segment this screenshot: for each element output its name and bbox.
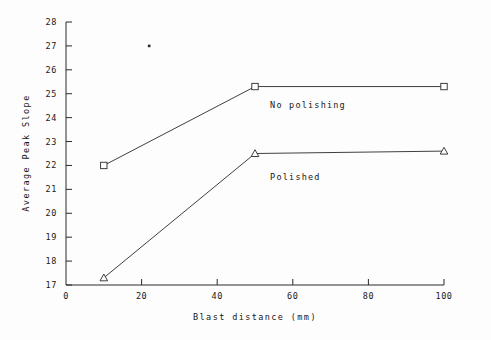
y-tick-label: 22: [46, 160, 57, 170]
y-tick-label: 28: [46, 17, 57, 27]
x-tick-label: 40: [211, 291, 222, 301]
data-series: No polishingPolished: [100, 83, 448, 280]
x-tick-label: 20: [136, 291, 147, 301]
y-tick-label: 27: [46, 41, 57, 51]
x-tick-label: 60: [287, 291, 298, 301]
series-line: [104, 151, 444, 278]
tick-labels: 171819202122232425262728020406080100: [46, 17, 453, 301]
y-tick-label: 19: [46, 232, 57, 242]
series-label: No polishing: [270, 100, 346, 110]
square-marker: [441, 83, 447, 89]
y-axis-title: Average Peak Slope: [21, 94, 31, 211]
x-tick-label: 100: [435, 291, 452, 301]
series-label: Polished: [270, 172, 321, 182]
y-tick-label: 23: [46, 137, 57, 147]
y-tick-label: 21: [46, 184, 57, 194]
square-marker: [252, 83, 258, 89]
square-marker: [101, 162, 107, 168]
plot-area: 171819202122232425262728020406080100 No …: [0, 0, 491, 340]
stray-speck: [148, 45, 151, 48]
x-tick-label: 80: [363, 291, 374, 301]
x-tick-label: 0: [63, 291, 69, 301]
y-tick-label: 24: [46, 113, 57, 123]
triangle-marker: [100, 274, 108, 281]
annotations: [148, 45, 151, 48]
y-tick-label: 18: [46, 256, 57, 266]
y-tick-label: 17: [46, 280, 57, 290]
y-tick-label: 26: [46, 65, 57, 75]
chart-figure: 171819202122232425262728020406080100 No …: [0, 0, 491, 340]
y-tick-label: 25: [46, 89, 57, 99]
x-axis-title: Blast distance (mm): [193, 312, 317, 322]
y-tick-label: 20: [46, 208, 57, 218]
